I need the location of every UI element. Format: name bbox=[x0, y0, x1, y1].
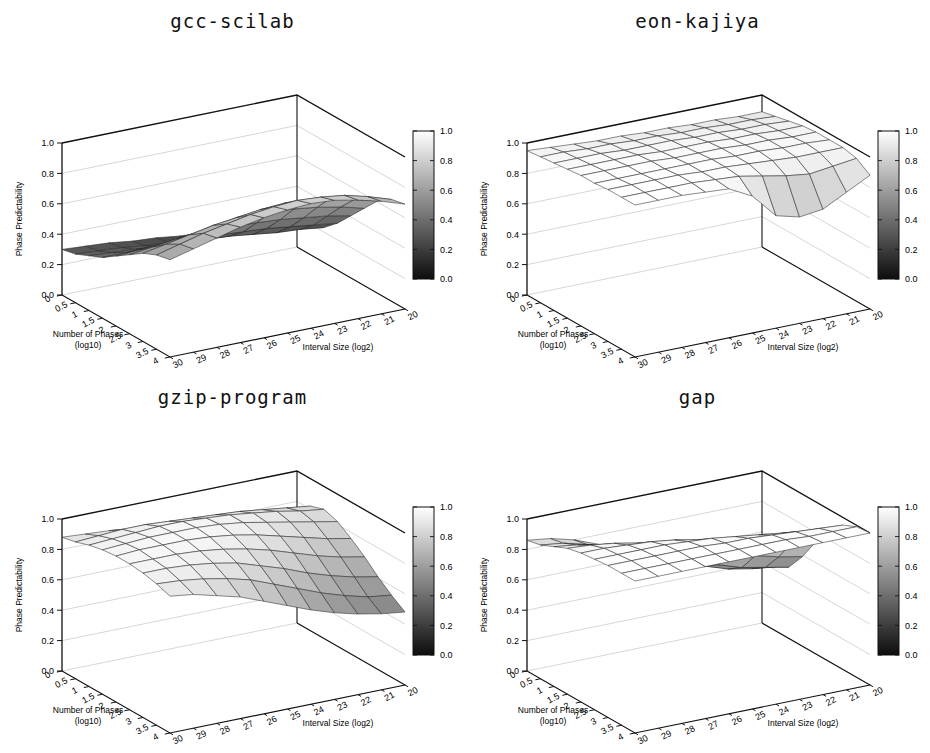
colorbar-tick-label: 0.8 bbox=[905, 532, 918, 542]
y-tick-label: 27 bbox=[707, 342, 721, 356]
surface-plot-svg: 0.00.20.40.60.81.0Phase Predictability00… bbox=[0, 0, 465, 376]
z-tick-label: 0.8 bbox=[506, 169, 519, 179]
z-tick-label: 0.6 bbox=[41, 199, 54, 209]
y-tick-label: 22 bbox=[359, 694, 373, 708]
z-axis-label: Phase Predictability bbox=[479, 181, 489, 256]
surface-mesh bbox=[527, 525, 870, 581]
x-tick-label: 1 bbox=[535, 685, 544, 696]
x-axis-label-line2: (log10) bbox=[540, 340, 567, 350]
colorbar-tick-label: 0.0 bbox=[440, 274, 453, 284]
x-tick-label: 4 bbox=[616, 355, 625, 366]
plot-panel-gcc-scilab: gcc-scilab0.00.20.40.60.81.0Phase Predic… bbox=[0, 0, 465, 376]
colorbar-tick-label: 0.2 bbox=[440, 245, 453, 255]
z-tick-label: 1.0 bbox=[506, 138, 519, 148]
x-tick-label: 1.5 bbox=[80, 315, 96, 330]
y-tick-label: 21 bbox=[383, 314, 397, 328]
y-tick-label: 28 bbox=[218, 347, 232, 361]
x-tick-label: 3 bbox=[124, 340, 133, 351]
y-tick-label: 28 bbox=[683, 723, 697, 737]
y-tick-label: 29 bbox=[195, 352, 209, 366]
x-tick-label: 1.5 bbox=[545, 691, 561, 706]
y-tick-label: 26 bbox=[730, 714, 744, 728]
z-tick-label: 0.2 bbox=[41, 636, 54, 646]
x-tick-label: 3.5 bbox=[134, 722, 150, 737]
surface-plot-svg: 0.00.20.40.60.81.0Phase Predictability00… bbox=[0, 376, 465, 752]
colorbar: 0.00.20.40.60.81.0 bbox=[878, 502, 918, 660]
z-tick-label: 1.0 bbox=[41, 514, 54, 524]
x-axis-label-line2: (log10) bbox=[75, 716, 102, 726]
z-axis: 0.00.20.40.60.81.0Phase Predictability bbox=[479, 514, 527, 676]
surface-mesh bbox=[62, 506, 405, 614]
z-tick-label: 0.8 bbox=[506, 545, 519, 555]
colorbar-tick-label: 0.4 bbox=[440, 591, 453, 601]
colorbar-tick-label: 0.4 bbox=[905, 215, 918, 225]
colorbar-tick-label: 0.0 bbox=[440, 650, 453, 660]
x-axis-label-line1: Number of Phases bbox=[518, 705, 588, 715]
y-tick-label: 30 bbox=[171, 357, 185, 371]
z-axis: 0.00.20.40.60.81.0Phase Predictability bbox=[479, 138, 527, 300]
x-tick-label: 4 bbox=[151, 355, 160, 366]
y-tick-label: 23 bbox=[336, 699, 350, 713]
x-tick-label: 4 bbox=[616, 731, 625, 742]
y-tick-label: 29 bbox=[195, 728, 209, 742]
plot-panel-gap: gap0.00.20.40.60.81.0Phase Predictabilit… bbox=[465, 376, 930, 752]
z-axis-label: Phase Predictability bbox=[479, 557, 489, 632]
z-axis: 0.00.20.40.60.81.0Phase Predictability bbox=[14, 138, 62, 300]
colorbar-tick-label: 0.6 bbox=[905, 186, 918, 196]
z-tick-label: 1.0 bbox=[506, 514, 519, 524]
x-tick-label: 1.5 bbox=[545, 315, 561, 330]
x-tick-label: 1 bbox=[535, 309, 544, 320]
colorbar: 0.00.20.40.60.81.0 bbox=[413, 502, 453, 660]
y-tick-label: 30 bbox=[636, 733, 650, 747]
z-tick-label: 0.2 bbox=[506, 636, 519, 646]
colorbar-tick-label: 0.2 bbox=[905, 621, 918, 631]
y-tick-label: 27 bbox=[242, 342, 256, 356]
z-tick-label: 0.2 bbox=[41, 260, 54, 270]
z-axis: 0.00.20.40.60.81.0Phase Predictability bbox=[14, 514, 62, 676]
y-tick-label: 29 bbox=[660, 728, 674, 742]
z-axis-label: Phase Predictability bbox=[14, 181, 24, 256]
x-tick-label: 3.5 bbox=[134, 346, 150, 361]
x-tick-label: 3 bbox=[124, 716, 133, 727]
x-tick-label: 3.5 bbox=[599, 346, 615, 361]
y-tick-label: 22 bbox=[824, 694, 838, 708]
y-tick-label: 21 bbox=[383, 690, 397, 704]
colorbar-tick-label: 1.0 bbox=[440, 126, 453, 136]
y-tick-label: 20 bbox=[871, 309, 885, 323]
colorbar-tick-label: 0.2 bbox=[440, 621, 453, 631]
y-tick-label: 22 bbox=[824, 318, 838, 332]
y-tick-label: 26 bbox=[265, 338, 279, 352]
z-tick-label: 0.8 bbox=[41, 545, 54, 555]
z-tick-label: 0.6 bbox=[506, 199, 519, 209]
y-tick-label: 28 bbox=[218, 723, 232, 737]
y-tick-label: 29 bbox=[660, 352, 674, 366]
colorbar-tick-label: 0.0 bbox=[905, 274, 918, 284]
colorbar-tick-label: 0.6 bbox=[440, 186, 453, 196]
y-tick-label: 30 bbox=[171, 733, 185, 747]
colorbar-gradient bbox=[413, 131, 434, 279]
colorbar-tick-label: 1.0 bbox=[440, 502, 453, 512]
y-tick-label: 27 bbox=[242, 718, 256, 732]
x-axis-label-line2: (log10) bbox=[75, 340, 102, 350]
colorbar: 0.00.20.40.60.81.0 bbox=[878, 126, 918, 284]
y-axis-label: Interval Size (log2) bbox=[303, 342, 374, 352]
z-tick-label: 0.4 bbox=[506, 606, 519, 616]
z-axis-label: Phase Predictability bbox=[14, 557, 24, 632]
x-tick-label: 3 bbox=[589, 716, 598, 727]
y-tick-label: 23 bbox=[336, 323, 350, 337]
plot-panel-gzip-program: gzip-program0.00.20.40.60.81.0Phase Pred… bbox=[0, 376, 465, 752]
figure-root: gcc-scilab0.00.20.40.60.81.0Phase Predic… bbox=[0, 0, 930, 753]
colorbar-tick-label: 1.0 bbox=[905, 126, 918, 136]
y-axis-label: Interval Size (log2) bbox=[768, 718, 839, 728]
z-tick-label: 0.2 bbox=[506, 260, 519, 270]
colorbar-tick-label: 0.8 bbox=[440, 532, 453, 542]
y-tick-label: 25 bbox=[754, 709, 768, 723]
y-tick-label: 28 bbox=[683, 347, 697, 361]
y-tick-label: 30 bbox=[636, 357, 650, 371]
y-tick-label: 24 bbox=[777, 328, 791, 342]
colorbar-tick-label: 0.6 bbox=[440, 562, 453, 572]
x-tick-label: 0.5 bbox=[53, 675, 69, 690]
y-tick-label: 27 bbox=[707, 718, 721, 732]
x-tick-label: 1 bbox=[70, 309, 79, 320]
x-tick-label: 0.5 bbox=[53, 299, 69, 314]
